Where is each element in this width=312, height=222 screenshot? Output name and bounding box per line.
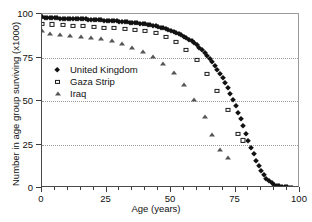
data-point xyxy=(98,37,104,41)
data-point xyxy=(88,35,94,39)
plot-frame xyxy=(41,13,299,187)
x-major-tick-100 xyxy=(299,187,300,192)
data-point xyxy=(57,32,63,36)
data-point xyxy=(81,24,86,28)
data-point xyxy=(91,25,96,29)
gridline-y-75 xyxy=(42,58,298,59)
legend-label: Gaza Strip xyxy=(70,76,115,88)
data-point xyxy=(109,39,115,43)
data-point xyxy=(132,28,137,32)
data-point xyxy=(112,26,117,30)
x-minor-tick-55 xyxy=(183,187,184,190)
x-minor-tick-45 xyxy=(157,187,158,190)
data-point xyxy=(122,27,127,31)
data-point xyxy=(191,97,197,101)
x-minor-tick-90 xyxy=(273,187,274,190)
data-point xyxy=(140,49,146,53)
data-point xyxy=(129,45,135,49)
y-major-tick-0 xyxy=(36,187,41,188)
x-minor-tick-95 xyxy=(286,187,287,190)
gridline-y-25 xyxy=(42,145,298,146)
x-minor-tick-60 xyxy=(196,187,197,190)
data-point xyxy=(153,31,158,35)
data-point xyxy=(47,32,53,36)
y-major-tick-25 xyxy=(36,144,41,145)
data-point xyxy=(194,58,199,62)
data-point xyxy=(67,33,73,37)
data-point xyxy=(150,55,156,59)
data-point xyxy=(143,29,148,33)
data-point xyxy=(78,34,84,38)
data-point xyxy=(225,156,231,160)
data-point xyxy=(215,89,220,93)
y-major-tick-50 xyxy=(36,100,41,101)
data-point xyxy=(174,40,179,44)
y-tick-label-100: 100 xyxy=(0,8,33,19)
x-minor-tick-30 xyxy=(118,187,119,190)
x-minor-tick-65 xyxy=(209,187,210,190)
data-point xyxy=(50,22,55,26)
x-minor-tick-15 xyxy=(80,187,81,190)
x-minor-tick-85 xyxy=(260,187,261,190)
data-point xyxy=(163,35,168,39)
data-point xyxy=(250,151,256,157)
data-point xyxy=(225,108,230,112)
x-minor-tick-40 xyxy=(144,187,145,190)
x-minor-tick-5 xyxy=(54,187,55,190)
y-axis-label: Number in age group surviving (x1000) xyxy=(10,22,21,186)
x-major-tick-25 xyxy=(106,187,107,192)
data-point xyxy=(171,71,177,75)
data-point xyxy=(202,114,208,118)
x-major-tick-0 xyxy=(41,187,42,192)
survival-curve-chart: 02550751000255075100 Age (years) Number … xyxy=(0,0,312,222)
data-point xyxy=(241,138,246,142)
data-point xyxy=(240,123,246,129)
data-point xyxy=(70,24,75,28)
plot-area xyxy=(42,14,298,186)
data-point xyxy=(101,25,106,29)
gridline-y-50 xyxy=(42,101,298,102)
data-point xyxy=(209,133,215,137)
x-minor-tick-80 xyxy=(247,187,248,190)
data-point xyxy=(245,138,251,144)
x-minor-tick-70 xyxy=(222,187,223,190)
data-point xyxy=(42,22,45,26)
x-axis-label: Age (years) xyxy=(0,203,312,214)
data-point xyxy=(243,130,249,136)
data-point xyxy=(181,83,187,87)
data-point xyxy=(42,29,45,33)
legend-label: Iraq xyxy=(70,88,86,100)
y-major-tick-75 xyxy=(36,57,41,58)
x-minor-tick-35 xyxy=(131,187,132,190)
x-major-tick-75 xyxy=(235,187,236,192)
legend-marker-filled-triangle-icon xyxy=(55,92,61,96)
legend-label: United Kingdom xyxy=(70,64,138,76)
data-point xyxy=(205,72,210,76)
data-point xyxy=(60,23,65,27)
y-major-tick-100 xyxy=(36,13,41,14)
data-point xyxy=(236,131,241,135)
x-major-tick-50 xyxy=(170,187,171,192)
data-point xyxy=(217,147,223,151)
data-point xyxy=(160,62,166,66)
data-point xyxy=(184,48,189,52)
x-minor-tick-20 xyxy=(93,187,94,190)
data-point xyxy=(238,116,244,122)
legend-marker-open-square-icon xyxy=(55,80,60,84)
data-point xyxy=(119,42,125,46)
data-point xyxy=(232,103,238,109)
x-minor-tick-10 xyxy=(67,187,68,190)
